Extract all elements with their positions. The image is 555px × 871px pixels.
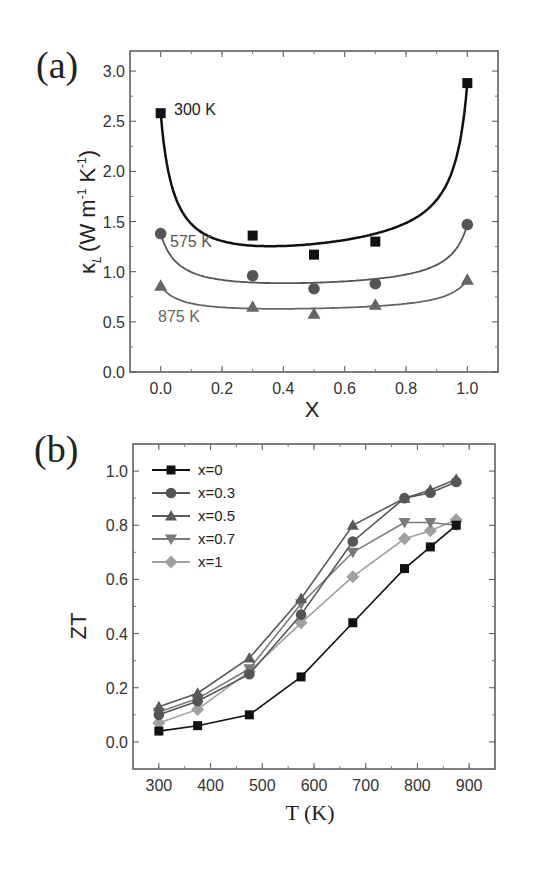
x-tick-label: 1.0 — [456, 380, 478, 397]
square-marker — [245, 710, 254, 719]
axis-ticks-a: 0.00.20.40.60.81.00.00.51.01.52.02.53.0 — [103, 51, 498, 397]
y-tick-label: 0.2 — [106, 680, 128, 697]
circle-marker — [296, 609, 307, 620]
figure: (a) 0.00.20.40.60.81.00.00.51.01.52.02.5… — [0, 0, 555, 871]
triangle-up-marker — [295, 592, 307, 603]
legend: x=0x=0.3x=0.5x=0.7x=1 — [152, 461, 235, 570]
square-marker — [348, 618, 357, 627]
legend-label: x=0.3 — [198, 484, 235, 501]
legend-item: x=0 — [152, 461, 223, 478]
diamond-marker — [398, 532, 411, 545]
legend-item: x=0.5 — [152, 507, 235, 524]
kappa-subscript: L — [89, 256, 104, 263]
annotation-575k: 575 K — [170, 233, 212, 250]
square-marker — [156, 108, 166, 118]
legend-item: x=0.3 — [152, 484, 235, 501]
circle-legend-icon — [166, 488, 177, 499]
x-tick-label: 0.6 — [334, 380, 356, 397]
svg-text:κL(W m-1 K-1): κL(W m-1 K-1) — [75, 150, 104, 274]
square-marker — [370, 237, 380, 247]
circle-marker — [425, 487, 436, 498]
diamond-legend-icon — [165, 556, 178, 569]
y-axis-label-b: ZT — [66, 613, 91, 640]
panel-b-label: (b) — [34, 428, 78, 471]
x-tick-label: 400 — [197, 777, 224, 794]
circle-marker — [370, 278, 382, 290]
x-tick-label: 0.8 — [395, 380, 417, 397]
circle-marker — [399, 493, 410, 504]
y-tick-label: 1.5 — [103, 214, 125, 231]
circle-marker — [154, 710, 165, 721]
y-tick-label: 0.0 — [106, 734, 128, 751]
x-axis-label-a: X — [305, 397, 320, 422]
legend-item: x=1 — [152, 553, 223, 570]
panel-a-label: (a) — [36, 44, 78, 87]
circle-marker — [308, 283, 320, 295]
square-marker — [426, 542, 435, 551]
circle-marker — [247, 270, 259, 282]
circle-marker — [192, 696, 203, 707]
x-tick-label: 700 — [352, 777, 379, 794]
square-legend-icon — [167, 466, 176, 475]
units-close: ) — [75, 150, 100, 157]
legend-label: x=0 — [198, 461, 223, 478]
square-marker — [309, 250, 319, 260]
y-tick-label: 2.0 — [103, 163, 125, 180]
x-tick-label: 900 — [456, 777, 483, 794]
x-tick-label: 600 — [301, 777, 328, 794]
units-part-2: K — [75, 168, 100, 189]
x-tick-label: 300 — [146, 777, 173, 794]
circle-marker — [155, 228, 167, 240]
triangle-up-marker — [369, 298, 382, 310]
y-tick-label: 0.5 — [103, 314, 125, 331]
square-marker — [154, 727, 163, 736]
units-part-1: (W m — [75, 199, 100, 252]
y-tick-label: 0.8 — [106, 517, 128, 534]
exponent-1: -1 — [75, 188, 89, 199]
x-axis-label-b: T (K) — [285, 800, 334, 825]
series-line-x=1 — [159, 520, 456, 723]
x-tick-label: 0.0 — [150, 380, 172, 397]
circle-marker — [462, 219, 474, 231]
square-marker — [193, 721, 202, 730]
y-tick-label: 0.6 — [106, 571, 128, 588]
x-tick-label: 500 — [249, 777, 276, 794]
square-marker — [452, 521, 461, 530]
legend-label: x=0.5 — [198, 507, 235, 524]
square-marker — [248, 231, 258, 241]
x-tick-label: 800 — [404, 777, 431, 794]
x-tick-label: 0.2 — [211, 380, 233, 397]
x-tick-label: 0.4 — [272, 380, 294, 397]
square-marker — [462, 78, 472, 88]
triangle-up-marker — [154, 279, 167, 291]
y-axis-label-a: κL(W m-1 K-1) — [75, 150, 104, 274]
triangle-up-marker — [347, 519, 359, 530]
y-tick-label: 1.0 — [103, 264, 125, 281]
y-tick-label: 3.0 — [103, 63, 125, 80]
legend-label: x=0.7 — [198, 530, 235, 547]
y-tick-label: 0.4 — [106, 626, 128, 643]
square-marker — [297, 672, 306, 681]
annotation-875k: 875 K — [158, 308, 200, 325]
circle-marker — [347, 536, 358, 547]
exponent-2: -1 — [75, 157, 89, 168]
annotation-300k: 300 K — [174, 101, 216, 118]
panel-b: (b) 3004005006007008009000.00.20.40.60.8… — [34, 428, 495, 825]
y-tick-label: 2.5 — [103, 113, 125, 130]
square-marker — [400, 564, 409, 573]
legend-label: x=1 — [198, 553, 223, 570]
triangle-up-marker — [461, 273, 474, 285]
circle-marker — [244, 669, 255, 680]
circle-marker — [451, 477, 462, 488]
panel-a: (a) 0.00.20.40.60.81.00.00.51.01.52.02.5… — [36, 44, 498, 422]
y-tick-label: 0.0 — [103, 364, 125, 381]
legend-item: x=0.7 — [152, 530, 235, 547]
triangle-up-marker — [246, 300, 259, 312]
y-tick-label: 1.0 — [106, 463, 128, 480]
